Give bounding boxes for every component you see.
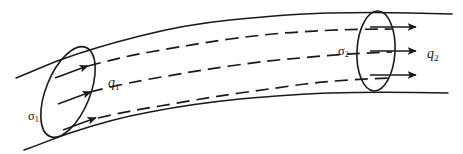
label-sigma-1: σ1	[28, 110, 39, 125]
inlet-flow-arrow-top	[55, 66, 88, 78]
label-sigma-2: σ2	[338, 45, 349, 60]
label-q-1-subscript: 1	[115, 82, 120, 92]
flow-tube-figure: σ1 q1 σ2 q2	[0, 0, 463, 154]
label-q-2-subscript: 2	[434, 53, 439, 63]
label-sigma-1-symbol: σ	[28, 109, 35, 123]
label-q-1: q1	[108, 76, 120, 92]
label-q-2: q2	[427, 47, 439, 63]
flow-tube-svg	[0, 0, 463, 154]
label-sigma-1-subscript: 1	[35, 115, 39, 124]
label-q-2-symbol: q	[427, 46, 434, 61]
label-q-1-symbol: q	[108, 75, 115, 90]
label-sigma-2-subscript: 2	[345, 50, 349, 59]
inlet-flow-arrow-middle	[58, 92, 91, 104]
label-sigma-2-symbol: σ	[338, 44, 345, 58]
inlet-flow-arrow-bottom	[63, 118, 96, 130]
